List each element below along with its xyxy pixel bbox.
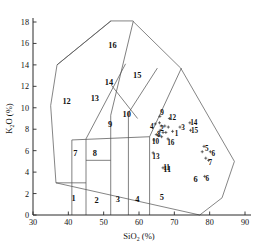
point-label-2: 2 [160, 125, 164, 133]
y-tick-label: 16 [21, 39, 29, 48]
y-tick-label: 0 [25, 211, 29, 220]
point-label-15: 15 [191, 127, 199, 135]
point-label-5: 5 [205, 145, 209, 153]
field-label-7: 7 [73, 149, 77, 158]
y-tick-label: 8 [25, 125, 29, 134]
outer-envelope [51, 21, 235, 215]
x-tick-label: 80 [206, 218, 214, 227]
x-tick-label: 40 [64, 218, 72, 227]
data-point [201, 150, 204, 153]
x-axis-title: SiO2 (%) [123, 231, 154, 242]
field-label-12: 12 [62, 97, 70, 106]
axis-lines [33, 18, 251, 215]
x-tick-label: 30 [29, 218, 37, 227]
point-number-labels: 912423141518101613115676 [150, 109, 215, 183]
point-label-3: 3 [181, 124, 185, 132]
data-point [171, 130, 174, 133]
y-axis-title: K2O (%) [4, 103, 15, 134]
point-label-12: 12 [169, 114, 177, 122]
axes-group [33, 18, 251, 215]
point-label-4: 4 [150, 123, 154, 131]
field-boundary [111, 21, 134, 115]
field-label-5: 5 [160, 193, 164, 202]
field-label-3: 3 [116, 195, 120, 204]
point-label-10: 10 [152, 138, 160, 146]
x-tick-label: 60 [135, 218, 143, 227]
point-label-9: 9 [160, 109, 164, 117]
point-label-6b: 6 [205, 175, 209, 183]
field-label-8: 8 [93, 149, 97, 158]
point-label-11: 11 [163, 164, 170, 172]
field-boundary [57, 21, 111, 65]
field-label-10: 10 [122, 110, 130, 119]
y-tick-label: 10 [21, 104, 29, 113]
y-tick-label: 6 [25, 147, 29, 156]
outer-envelope-polygon [51, 21, 235, 215]
y-tick-label: 12 [21, 82, 29, 91]
field-label-16: 16 [108, 41, 116, 50]
data-point [164, 131, 167, 134]
point-label-7: 7 [209, 159, 213, 167]
point-label-13: 13 [152, 153, 160, 161]
field-label-13: 13 [91, 94, 99, 103]
field-label-6: 6 [193, 175, 197, 184]
x-tick-label: 90 [241, 218, 249, 227]
data-point [204, 157, 207, 160]
y-tick-label: 4 [25, 168, 29, 177]
tas-classification-chart: 30405060708090024681012141618 1234567891… [0, 0, 265, 244]
field-label-4: 4 [135, 195, 140, 204]
y-tick-label: 18 [21, 18, 29, 27]
point-label-16: 16 [167, 139, 175, 147]
field-label-9: 9 [108, 120, 112, 129]
x-tick-label: 70 [170, 218, 178, 227]
point-label-6: 6 [211, 150, 215, 158]
x-tick-label: 50 [100, 218, 108, 227]
chart-svg: 30405060708090024681012141618 1234567891… [0, 0, 265, 244]
field-label-15: 15 [133, 71, 141, 80]
y-tick-label: 14 [21, 61, 29, 70]
field-label-1: 1 [72, 194, 76, 203]
y-tick-label: 2 [25, 190, 29, 199]
point-label-1: 1 [175, 130, 179, 138]
field-label-14: 14 [105, 78, 114, 87]
data-point [167, 126, 170, 129]
field-label-2: 2 [95, 196, 99, 205]
